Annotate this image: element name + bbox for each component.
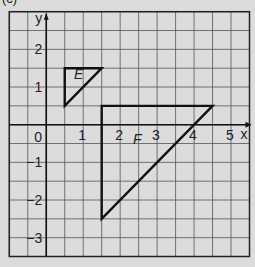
- x-tick-label: 2: [115, 127, 123, 143]
- axes: x y 0: [9, 10, 251, 257]
- y-axis-arrow-icon: [44, 14, 49, 20]
- grid-border: [9, 12, 249, 257]
- y-tick-label: −2: [26, 192, 42, 208]
- coordinate-grid: x y 0 1234521−1−2−3 EF: [0, 0, 255, 267]
- x-tick-label: 1: [78, 127, 86, 143]
- y-tick-label: −1: [26, 154, 42, 170]
- triangle-f-label: F: [133, 131, 143, 147]
- origin-label: 0: [34, 129, 42, 145]
- grid-lines: [9, 12, 249, 257]
- x-tick-label: 5: [226, 127, 234, 143]
- triangle-e-label: E: [74, 66, 84, 82]
- y-tick-label: 1: [34, 79, 42, 95]
- y-tick-label: 2: [34, 41, 42, 57]
- x-axis-label: x: [241, 126, 248, 142]
- x-tick-label: 3: [152, 127, 160, 143]
- y-tick-label: −3: [26, 230, 42, 246]
